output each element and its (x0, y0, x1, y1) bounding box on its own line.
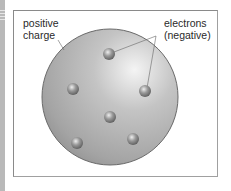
electron-icon (127, 133, 139, 145)
electrons-label-line1: electrons (164, 17, 211, 29)
electron-icon (71, 137, 83, 149)
electron-icon (104, 111, 116, 123)
electrons-label: electrons (negative) (164, 17, 211, 41)
positive-label-line1: positive (23, 17, 59, 29)
positive-charge-label: positive charge (23, 17, 59, 41)
positive-label-line2: charge (23, 29, 59, 41)
electron-icon (139, 85, 151, 97)
electron-icon (67, 83, 79, 95)
electron-icon (103, 48, 115, 60)
positive-leader-line (58, 40, 64, 50)
electrons-label-line2: (negative) (164, 29, 211, 41)
